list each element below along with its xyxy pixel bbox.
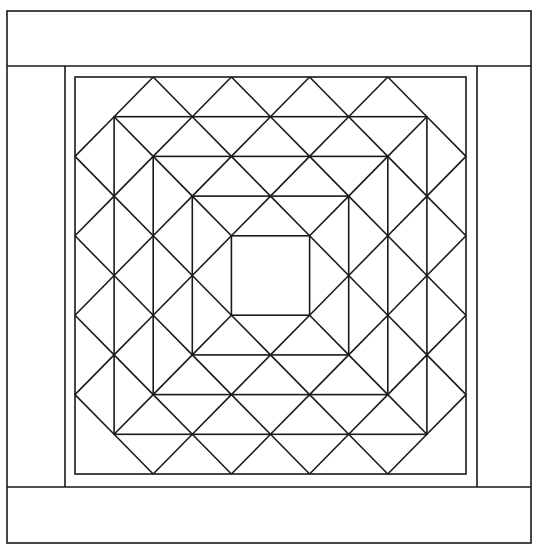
diagonal-segment: [388, 236, 427, 276]
diagonal-segment: [231, 77, 270, 117]
diagonal-segment: [75, 395, 114, 435]
diagonal-segment: [349, 315, 388, 355]
diagonal-segment: [231, 196, 270, 236]
diagonal-segment: [271, 196, 310, 236]
diamond-lattice: [75, 77, 466, 474]
diagonal-segment: [153, 77, 192, 117]
diagonal-segment: [388, 117, 427, 157]
diagonal-segment: [153, 117, 192, 157]
diagonal-segment: [114, 196, 153, 236]
diagonal-segment: [75, 117, 114, 157]
diagonal-segment: [427, 315, 466, 355]
diagonal-segment: [114, 395, 153, 435]
quilt-diagram: [0, 0, 540, 552]
diagonal-segment: [75, 196, 114, 236]
diagonal-segment: [349, 196, 388, 236]
diagonal-segment: [427, 236, 466, 276]
diagonal-segment: [114, 355, 153, 395]
diagonal-segment: [153, 434, 192, 474]
diagonal-segment: [388, 77, 427, 117]
diagonal-segment: [114, 434, 153, 474]
diagonal-segment: [114, 315, 153, 355]
diagonal-segment: [310, 117, 349, 157]
diagonal-segment: [271, 117, 310, 157]
diagonal-segment: [349, 355, 388, 395]
diagonal-segment: [75, 315, 114, 355]
diagonal-segment: [231, 156, 270, 196]
diagonal-segment: [114, 276, 153, 316]
outer-border: [7, 11, 531, 543]
diagonal-segment: [153, 276, 192, 316]
diagonal-segment: [153, 156, 192, 196]
diagonal-segment: [388, 156, 427, 196]
diagonal-segment: [153, 236, 192, 276]
diagonal-segment: [427, 156, 466, 196]
diagonal-segment: [388, 315, 427, 355]
diagonal-segment: [427, 355, 466, 395]
diagonal-segment: [310, 395, 349, 435]
diagonal-segment: [192, 236, 231, 276]
diagonal-segment: [310, 315, 349, 355]
diagonal-segment: [271, 434, 310, 474]
diagonal-segment: [349, 434, 388, 474]
diagonal-segment: [114, 77, 153, 117]
diagonal-segment: [388, 355, 427, 395]
diagonal-segment: [192, 395, 231, 435]
diagonal-segment: [349, 276, 388, 316]
diagonal-segment: [114, 236, 153, 276]
diagonal-segment: [231, 434, 270, 474]
diagonal-segment: [349, 117, 388, 157]
diagonal-segment: [231, 117, 270, 157]
diagonal-segment: [427, 276, 466, 316]
diagonal-segment: [388, 395, 427, 435]
diagonal-segment: [349, 395, 388, 435]
diagonal-segment: [310, 156, 349, 196]
diagonal-segment: [310, 276, 349, 316]
diagonal-segment: [388, 276, 427, 316]
diagonal-segment: [310, 355, 349, 395]
diagonal-segment: [388, 434, 427, 474]
diagonal-segment: [192, 156, 231, 196]
diagonal-segment: [192, 196, 231, 236]
diagonal-segment: [271, 77, 310, 117]
diagonal-segment: [388, 196, 427, 236]
diagonal-segment: [153, 355, 192, 395]
diagonal-segment: [75, 156, 114, 196]
diagonal-segment: [349, 236, 388, 276]
diagonal-segment: [349, 156, 388, 196]
diagonal-segment: [192, 77, 231, 117]
diagonal-segment: [192, 117, 231, 157]
diagonal-segment: [310, 434, 349, 474]
square-ring-4: [231, 236, 309, 315]
diagonal-segment: [192, 434, 231, 474]
diagonal-segment: [271, 395, 310, 435]
diagonal-segment: [192, 276, 231, 316]
diagonal-segment: [310, 77, 349, 117]
diagonal-segment: [114, 117, 153, 157]
diagonal-segment: [153, 315, 192, 355]
diagonal-segment: [271, 355, 310, 395]
diagonal-segment: [310, 196, 349, 236]
diagonal-segment: [75, 276, 114, 316]
quilt-borders: [7, 11, 531, 543]
diagonal-segment: [153, 196, 192, 236]
diagonal-segment: [349, 77, 388, 117]
diagonal-segment: [427, 117, 466, 157]
diagonal-segment: [75, 355, 114, 395]
diagonal-segment: [427, 196, 466, 236]
diagonal-segment: [231, 315, 270, 355]
diagonal-segment: [231, 355, 270, 395]
diagonal-segment: [231, 395, 270, 435]
diagonal-segment: [310, 236, 349, 276]
diagonal-segment: [114, 156, 153, 196]
diagonal-segment: [427, 395, 466, 435]
diagonal-segment: [153, 395, 192, 435]
diagonal-segment: [75, 236, 114, 276]
diagonal-segment: [192, 315, 231, 355]
diagonal-segment: [192, 355, 231, 395]
diagonal-segment: [271, 156, 310, 196]
diagonal-segment: [271, 315, 310, 355]
